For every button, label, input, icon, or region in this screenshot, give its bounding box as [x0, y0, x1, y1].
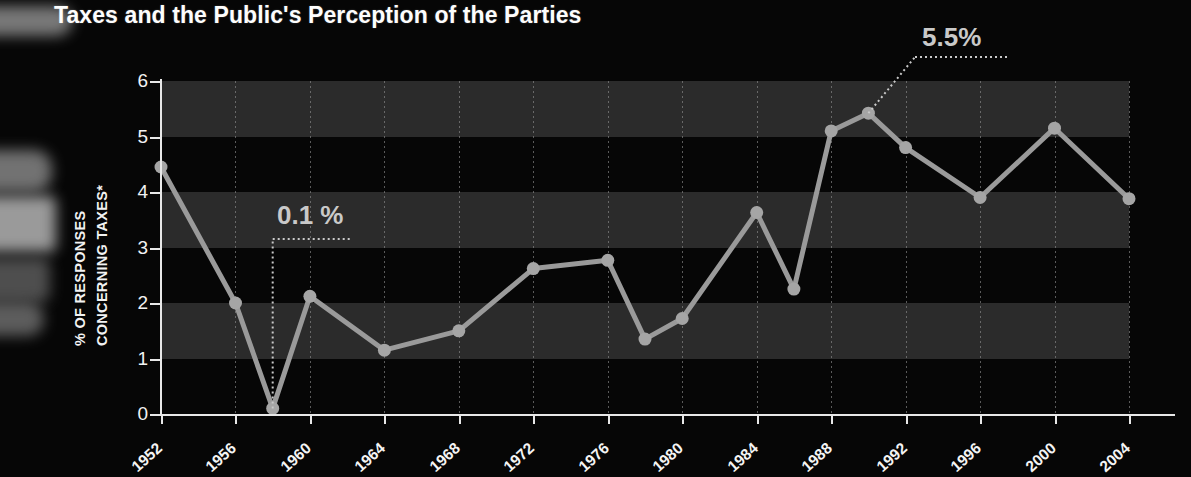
annotation-peak-value: 5.5% [922, 22, 981, 53]
annotation-leader-lines [0, 0, 1191, 477]
leader-line [868, 57, 915, 113]
annotation-min-value: 0.1 % [277, 200, 344, 231]
chart-figure: Taxes and the Public's Perception of the… [0, 0, 1191, 477]
